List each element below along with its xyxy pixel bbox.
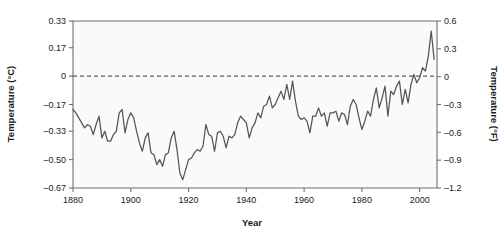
left-tick-label: –0.50 [43, 155, 66, 165]
left-tick-label: 0.33 [48, 16, 66, 26]
x-tick-label: 1920 [179, 195, 199, 205]
right-tick-label: –0.9 [444, 155, 462, 165]
plot-area-background [73, 21, 437, 188]
left-tick-label: 0 [61, 71, 66, 81]
right-tick-label: 0.3 [444, 44, 457, 54]
right-tick-label: –1.2 [444, 183, 462, 193]
y-axis-title-left: Temperature (°C) [5, 66, 16, 142]
right-tick-label: 0 [444, 72, 449, 82]
left-tick-label: –0.33 [43, 126, 66, 136]
x-tick-label: 1960 [294, 195, 314, 205]
x-tick-label: 2000 [410, 195, 430, 205]
temperature-anomaly-chart: 0.330.170–0.17–0.33–0.50–0.67 0.60.30–0.… [0, 0, 504, 243]
right-tick-label: –0.6 [444, 128, 462, 138]
x-tick-label: 1940 [236, 195, 256, 205]
left-tick-label: –0.67 [43, 183, 66, 193]
right-tick-label: 0.6 [444, 16, 457, 26]
x-tick-label: 1980 [352, 195, 372, 205]
left-tick-label: –0.17 [43, 100, 66, 110]
x-tick-label: 1900 [121, 195, 141, 205]
y-axis-title-right: Temperature (°F) [489, 66, 500, 141]
right-tick-label: –0.3 [444, 100, 462, 110]
x-tick-label: 1880 [63, 195, 83, 205]
x-axis-title: Year [242, 217, 262, 228]
chart-canvas: 0.330.170–0.17–0.33–0.50–0.67 0.60.30–0.… [0, 0, 504, 243]
left-tick-label: 0.17 [48, 43, 66, 53]
